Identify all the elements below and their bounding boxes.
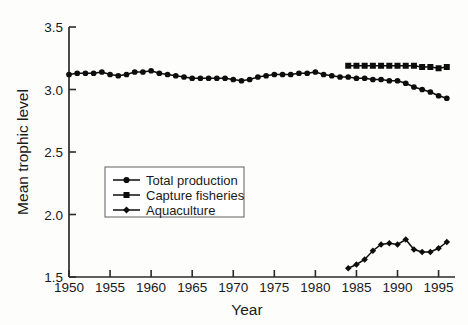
data-marker	[321, 72, 327, 78]
data-marker	[247, 77, 253, 83]
y-axis: 1.52.02.53.03.5 Mean trophic level	[14, 20, 76, 285]
y-tick-label: 2.0	[44, 208, 63, 223]
data-marker	[353, 261, 360, 268]
series-aquaculture	[345, 236, 450, 271]
data-marker	[378, 63, 384, 69]
data-marker	[313, 69, 319, 75]
data-marker	[198, 75, 204, 81]
x-tick-label: 1975	[259, 280, 289, 295]
x-tick-label: 1960	[136, 280, 166, 295]
data-marker	[378, 77, 384, 83]
data-marker	[239, 78, 245, 84]
legend-label: Capture fisheries	[146, 188, 245, 203]
data-marker	[148, 68, 154, 74]
data-marker	[255, 74, 261, 80]
x-tick-label: 1950	[54, 280, 84, 295]
data-marker	[419, 64, 425, 70]
data-marker	[123, 177, 129, 183]
data-marker	[140, 69, 146, 75]
data-marker	[115, 73, 121, 79]
x-tick-label: 1995	[424, 280, 454, 295]
data-marker	[83, 70, 89, 76]
x-tick-labels: 1950195519601965197019751980198519901995	[54, 280, 454, 295]
x-axis-title: Year	[231, 301, 262, 318]
data-marker	[419, 249, 426, 256]
data-marker	[329, 73, 335, 79]
data-marker	[362, 75, 368, 81]
data-marker	[428, 89, 434, 95]
data-marker	[362, 63, 368, 69]
legend-label: Aquaculture	[146, 203, 215, 218]
data-marker	[124, 192, 130, 198]
data-marker	[353, 63, 359, 69]
x-tick-label: 1970	[218, 280, 248, 295]
data-marker	[386, 240, 393, 247]
data-marker	[419, 87, 425, 93]
data-marker	[411, 84, 417, 90]
data-marker	[66, 72, 72, 78]
data-marker	[354, 75, 360, 81]
data-marker	[345, 265, 352, 272]
series-total-production	[66, 68, 450, 101]
data-marker	[444, 95, 450, 101]
x-tick-label: 1980	[300, 280, 330, 295]
data-marker	[206, 75, 212, 81]
y-tick-label: 2.5	[44, 145, 63, 160]
data-marker	[91, 70, 97, 76]
data-marker	[345, 63, 351, 69]
series-capture-fisheries	[345, 63, 450, 72]
legend: Total productionCapture fisheriesAquacul…	[105, 167, 245, 218]
data-marker	[124, 72, 130, 78]
x-tick-label: 1990	[382, 280, 412, 295]
data-marker	[403, 80, 409, 86]
y-axis-title: Mean trophic level	[14, 89, 31, 215]
data-marker	[403, 63, 409, 69]
data-marker	[181, 74, 187, 80]
x-tick-label: 1955	[95, 280, 125, 295]
x-axis: 1950195519601965197019751980198519901995…	[54, 270, 455, 318]
data-marker	[411, 63, 417, 69]
data-marker	[395, 63, 401, 69]
data-marker	[386, 78, 392, 84]
data-marker	[99, 69, 105, 75]
y-tick-label: 3.0	[44, 83, 63, 98]
data-marker	[214, 75, 220, 81]
data-marker	[173, 73, 179, 79]
y-tick-labels: 1.52.02.53.03.5	[44, 20, 63, 285]
data-marker	[74, 70, 80, 76]
y-tick-marks	[69, 27, 76, 277]
data-marker	[132, 69, 138, 75]
data-marker	[107, 72, 113, 78]
data-marker	[222, 75, 228, 81]
legend-label: Total production	[146, 173, 238, 188]
data-marker	[427, 249, 434, 256]
data-marker	[263, 73, 269, 79]
data-marker	[386, 63, 392, 69]
data-marker	[288, 72, 294, 78]
x-tick-marks	[69, 270, 439, 277]
data-marker	[304, 70, 310, 76]
data-marker	[296, 70, 302, 76]
data-marker	[156, 70, 162, 76]
trophic-level-line-chart: 1.52.02.53.03.5 Mean trophic level 19501…	[0, 0, 468, 325]
data-marker	[395, 78, 401, 84]
data-marker	[230, 77, 236, 83]
data-marker	[271, 72, 277, 78]
data-marker	[337, 74, 343, 80]
data-marker	[165, 72, 171, 78]
data-marker	[436, 93, 442, 99]
data-marker	[280, 72, 286, 78]
data-marker	[345, 74, 351, 80]
data-marker	[444, 64, 450, 70]
data-marker	[427, 64, 433, 70]
data-marker	[189, 75, 195, 81]
y-tick-label: 3.5	[44, 20, 63, 35]
data-marker	[394, 241, 401, 248]
data-marker	[436, 65, 442, 71]
data-marker	[370, 77, 376, 83]
x-tick-label: 1985	[341, 280, 371, 295]
figure-container: 1.52.02.53.03.5 Mean trophic level 19501…	[0, 0, 468, 325]
x-tick-label: 1965	[177, 280, 207, 295]
data-marker	[370, 63, 376, 69]
